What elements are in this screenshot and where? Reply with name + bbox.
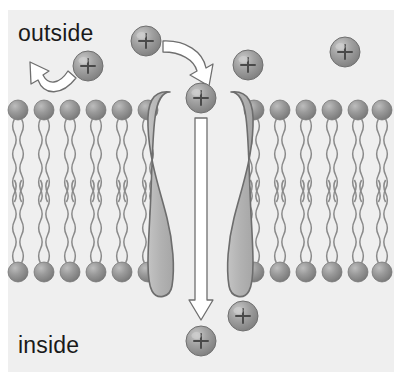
ions-group bbox=[73, 26, 360, 356]
phospholipid bbox=[322, 180, 342, 282]
phospholipid bbox=[372, 180, 392, 282]
membrane-transport-figure: outside inside bbox=[0, 0, 402, 379]
phospholipid bbox=[348, 100, 368, 202]
phospholipid bbox=[322, 100, 342, 202]
arrow-rejection bbox=[30, 62, 76, 92]
phospholipid bbox=[34, 180, 54, 282]
ion-outside-far-right[interactable] bbox=[330, 37, 360, 67]
ion-outside-mid-right[interactable] bbox=[233, 50, 263, 80]
phospholipid bbox=[86, 100, 106, 202]
phospholipid bbox=[112, 100, 132, 202]
phospholipid bbox=[60, 180, 80, 282]
phospholipid bbox=[348, 180, 368, 282]
phospholipid bbox=[270, 100, 290, 202]
phospholipid bbox=[86, 180, 106, 282]
phospholipid bbox=[372, 100, 392, 202]
channel-lobe-left bbox=[148, 92, 173, 297]
phospholipid bbox=[112, 180, 132, 282]
channel-lobe-right bbox=[228, 92, 253, 297]
arrow-transport bbox=[189, 118, 213, 320]
ion-entering-outside[interactable] bbox=[131, 26, 161, 56]
phospholipid bbox=[296, 180, 316, 282]
phospholipid bbox=[296, 100, 316, 202]
phospholipid bbox=[34, 100, 54, 202]
phospholipid bbox=[270, 180, 290, 282]
phospholipid bbox=[60, 100, 80, 202]
diagram-canvas bbox=[0, 0, 402, 379]
phospholipid bbox=[8, 100, 28, 202]
label-inside: inside bbox=[18, 334, 79, 357]
ion-in-pore-mouth[interactable] bbox=[186, 83, 216, 113]
ion-rejected-outside[interactable] bbox=[73, 51, 103, 81]
phospholipid bbox=[8, 180, 28, 282]
ion-inside-right[interactable] bbox=[228, 301, 258, 331]
ion-inside-below-pore[interactable] bbox=[186, 326, 216, 356]
arrow-entry bbox=[163, 41, 213, 86]
label-outside: outside bbox=[18, 22, 94, 45]
